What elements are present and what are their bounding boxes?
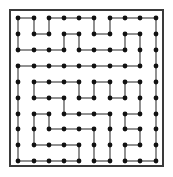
grid-dot: [77, 48, 82, 53]
grid-dot: [47, 96, 52, 101]
grid-dot: [32, 159, 37, 164]
grid-dot: [92, 48, 97, 53]
grid-dot: [62, 80, 67, 85]
grid-dot: [138, 16, 143, 21]
grid-dot: [32, 127, 37, 132]
grid-dot: [16, 64, 21, 69]
grid-dot: [92, 32, 97, 37]
grid-dot: [154, 32, 159, 37]
maze-grid: [0, 0, 173, 177]
grid-dot: [16, 159, 21, 164]
grid-dot: [108, 159, 113, 164]
grid-dot: [154, 143, 159, 148]
grid-dot: [62, 64, 67, 69]
grid-dot: [108, 112, 113, 117]
grid-dot: [77, 64, 82, 69]
grid-dot: [77, 80, 82, 85]
grid-dot: [62, 112, 67, 117]
grid-dot: [123, 143, 128, 148]
grid-dot: [77, 96, 82, 101]
grid-dot: [154, 159, 159, 164]
grid-dot: [108, 127, 113, 132]
grid-dot: [16, 127, 21, 132]
grid-dot: [138, 32, 143, 37]
grid-dot: [138, 159, 143, 164]
grid-dot: [123, 127, 128, 132]
grid-dot: [47, 48, 52, 53]
grid-dot: [47, 143, 52, 148]
grid-dot: [138, 80, 143, 85]
grid-dot: [92, 112, 97, 117]
grid-dot: [154, 48, 159, 53]
grid-dot: [108, 96, 113, 101]
grid-dot: [123, 112, 128, 117]
grid-dot: [154, 96, 159, 101]
grid-dot: [62, 127, 67, 132]
grid-dot: [16, 48, 21, 53]
grid-dot: [32, 64, 37, 69]
grid-dot: [92, 96, 97, 101]
grid-dot: [123, 96, 128, 101]
grid-dot: [32, 32, 37, 37]
grid-dot: [77, 159, 82, 164]
grid-dot: [16, 112, 21, 117]
grid-dot: [62, 48, 67, 53]
grid-dot: [92, 143, 97, 148]
grid-dot: [138, 96, 143, 101]
grid-dot: [77, 127, 82, 132]
grid-dot: [47, 16, 52, 21]
grid-dot: [77, 143, 82, 148]
grid-dot: [154, 64, 159, 69]
grid-dot: [16, 96, 21, 101]
grid-dot: [62, 143, 67, 148]
grid-dot: [47, 127, 52, 132]
grid-dot: [77, 16, 82, 21]
grid-dot: [47, 159, 52, 164]
grid-dot: [47, 32, 52, 37]
grid-dot: [108, 80, 113, 85]
grid-dot: [123, 64, 128, 69]
grid-dot: [92, 64, 97, 69]
grid-dot: [47, 80, 52, 85]
grid-dot: [16, 16, 21, 21]
grid-dot: [154, 16, 159, 21]
grid-dot: [47, 64, 52, 69]
grid-dot: [123, 16, 128, 21]
grid-dot: [77, 112, 82, 117]
grid-dot: [16, 143, 21, 148]
grid-dot: [16, 80, 21, 85]
grid-dot: [32, 80, 37, 85]
grid-dot: [154, 80, 159, 85]
grid-dot: [108, 64, 113, 69]
grid-dot: [62, 32, 67, 37]
grid-dot: [123, 48, 128, 53]
grid-dot: [123, 159, 128, 164]
grid-dot: [62, 159, 67, 164]
grid-dot: [138, 48, 143, 53]
grid-dot: [123, 80, 128, 85]
grid-dot: [92, 80, 97, 85]
grid-dot: [32, 48, 37, 53]
grid-dot: [92, 159, 97, 164]
grid-dot: [32, 112, 37, 117]
grid-dot: [108, 32, 113, 37]
grid-dot: [138, 64, 143, 69]
grid-dot: [138, 112, 143, 117]
grid-dot: [92, 16, 97, 21]
grid-dot: [47, 112, 52, 117]
grid-dot: [62, 96, 67, 101]
grid-dot: [108, 16, 113, 21]
grid-dot: [16, 32, 21, 37]
grid-dot: [32, 16, 37, 21]
grid-dot: [108, 143, 113, 148]
grid-dot: [138, 127, 143, 132]
maze-dots: [16, 16, 159, 164]
grid-dot: [32, 143, 37, 148]
grid-dot: [138, 143, 143, 148]
grid-dot: [92, 127, 97, 132]
grid-dot: [123, 32, 128, 37]
grid-dot: [32, 96, 37, 101]
grid-dot: [77, 32, 82, 37]
grid-dot: [108, 48, 113, 53]
grid-dot: [154, 112, 159, 117]
